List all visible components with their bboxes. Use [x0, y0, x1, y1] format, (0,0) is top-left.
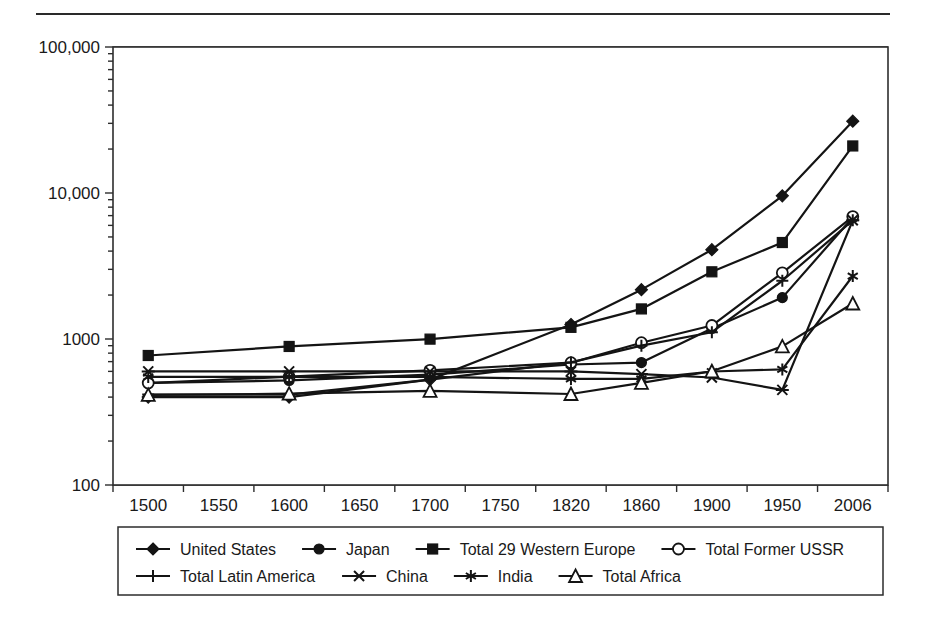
- chart-legend: United StatesJapanTotal 29 Western Europ…: [118, 527, 883, 595]
- legend-marker-icon: [428, 544, 438, 554]
- legend-item-label: China: [386, 568, 428, 585]
- data-point-marker: [425, 334, 435, 344]
- data-point-marker: [284, 341, 294, 351]
- x-axis-tick-label: 1900: [693, 496, 731, 515]
- legend-item-total-africa[interactable]: Total Africa: [559, 568, 681, 585]
- x-axis-tick-label: 1650: [341, 496, 379, 515]
- data-point-marker: [636, 358, 646, 368]
- x-axis-tick-label: 1750: [482, 496, 520, 515]
- data-point-marker: [566, 322, 576, 332]
- legend-item-label: Total Africa: [603, 568, 681, 585]
- x-axis-tick-label: 1820: [552, 496, 590, 515]
- x-axis-ticks: [113, 485, 888, 492]
- x-axis-tick-label: 1950: [763, 496, 801, 515]
- x-axis-tick-label: 1500: [129, 496, 167, 515]
- legend-item-label: United States: [180, 541, 276, 558]
- legend-item-label: Total Latin America: [180, 568, 315, 585]
- data-point-marker: [777, 293, 787, 303]
- data-point-marker: [707, 267, 717, 277]
- x-axis-tick-label: 1550: [200, 496, 238, 515]
- y-axis-tick-label: 10,000: [48, 184, 100, 203]
- legend-marker-icon: [673, 544, 684, 555]
- y-axis-ticks: [105, 47, 113, 485]
- population-line-chart: 100100010,000100,000 1500155016001650170…: [0, 0, 926, 639]
- y-axis-tick-label: 100,000: [39, 38, 100, 57]
- data-point-marker: [636, 304, 646, 314]
- plot-area-frame: [113, 47, 888, 485]
- legend-marker-icon: [314, 544, 324, 554]
- legend-item-label: Total Former USSR: [705, 541, 844, 558]
- legend-item-label: Total 29 Western Europe: [460, 541, 636, 558]
- data-point-marker: [777, 238, 787, 248]
- x-axis-tick-label: 1860: [622, 496, 660, 515]
- x-axis-tick-label: 1600: [270, 496, 308, 515]
- y-axis-tick-label: 1000: [62, 330, 100, 349]
- legend-item-label: India: [498, 568, 533, 585]
- page-root: 100100010,000100,000 1500155016001650170…: [0, 0, 926, 639]
- x-axis-labels: 1500155016001650170017501820186019001950…: [129, 496, 871, 515]
- x-axis-tick-label: 1700: [411, 496, 449, 515]
- x-axis-tick-label: 2006: [834, 496, 872, 515]
- y-axis-labels: 100100010,000100,000: [39, 38, 100, 495]
- y-axis-tick-label: 100: [72, 476, 100, 495]
- data-point-marker: [143, 350, 153, 360]
- data-point-marker: [848, 141, 858, 151]
- legend-item-label: Japan: [346, 541, 390, 558]
